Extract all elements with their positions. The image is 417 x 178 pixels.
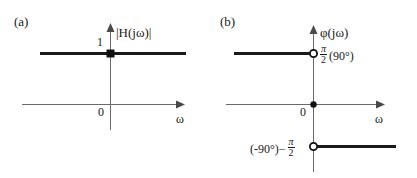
panel-a-value-label-one: 1 bbox=[97, 36, 103, 48]
panel-b-phase-plot: (b) φ(jω) π 2 (90 bbox=[208, 0, 417, 178]
panel-b-upper-degrees: (90°) bbox=[329, 50, 354, 62]
panel-b-marker-origin bbox=[310, 101, 316, 107]
figure-container: (a) |H(jω)| 1 0 ω (b) bbox=[0, 0, 417, 178]
panel-b-lower-degrees: (-90°)− bbox=[250, 143, 286, 155]
panel-b-y-axis-label: φ(jω) bbox=[320, 26, 348, 39]
panel-a-y-axis-label: |H(jω)| bbox=[116, 26, 151, 39]
panel-b-svg bbox=[208, 0, 417, 178]
panel-b-x-axis-label: ω bbox=[375, 113, 383, 125]
panel-b-y-axis-arrow bbox=[310, 25, 318, 34]
panel-b-x-axis-arrow bbox=[376, 101, 385, 109]
panel-b-marker-upper bbox=[310, 50, 317, 57]
panel-a-x-axis-arrow bbox=[176, 101, 185, 109]
panel-a-x-axis-label: ω bbox=[176, 113, 184, 125]
panel-b-lower-denominator: 2 bbox=[288, 148, 295, 158]
panel-a-magnitude-plot: (a) |H(jω)| 1 0 ω bbox=[0, 0, 208, 178]
panel-a-svg bbox=[0, 0, 208, 178]
panel-b-upper-value-label: π 2 (90°) bbox=[320, 45, 354, 66]
panel-b-marker-lower bbox=[310, 143, 317, 150]
panel-a-origin-label: 0 bbox=[98, 106, 104, 118]
panel-b-upper-denominator: 2 bbox=[320, 55, 327, 65]
panel-b-lower-fraction: π 2 bbox=[288, 137, 295, 158]
panel-b-lower-value-label: (-90°)− π 2 bbox=[250, 138, 295, 159]
panel-a-y-axis-arrow bbox=[107, 23, 115, 32]
panel-b-origin-label: 0 bbox=[300, 106, 306, 118]
panel-b-upper-fraction: π 2 bbox=[320, 44, 327, 65]
panel-a-origin-marker bbox=[107, 50, 115, 58]
